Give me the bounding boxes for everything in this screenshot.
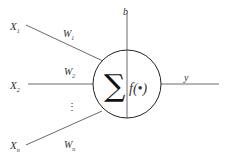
output-label: y (183, 72, 189, 83)
ellipsis: ⋮ (67, 101, 77, 112)
weight-label-2: W2 (64, 66, 75, 79)
sum-symbol: ∑ (104, 68, 126, 103)
input-label-2: X2 (9, 79, 20, 93)
weight-label-1: W1 (63, 28, 74, 41)
activation-function: f(•) (129, 81, 147, 97)
neuron-diagram: X1 X2 Xn W1 W2 Wn ⋮ b ∑ f(•) y (0, 0, 227, 165)
bias-label: b (123, 6, 128, 17)
input-label-1: X1 (9, 20, 20, 34)
weight-label-n: Wn (64, 139, 75, 152)
input-label-n: Xn (9, 139, 20, 153)
